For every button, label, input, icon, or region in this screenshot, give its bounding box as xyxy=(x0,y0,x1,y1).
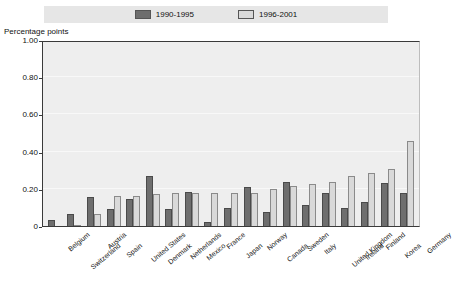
bar[interactable] xyxy=(283,182,290,226)
bar-group xyxy=(45,42,65,226)
bar-group xyxy=(300,42,320,226)
bar[interactable] xyxy=(231,193,238,226)
x-tick-label: Spain xyxy=(125,242,143,259)
y-tick-mark xyxy=(39,41,42,42)
bar-group xyxy=(397,42,417,226)
bar-group xyxy=(319,42,339,226)
bar[interactable] xyxy=(67,214,74,226)
bar-group xyxy=(84,42,104,226)
bar[interactable] xyxy=(48,220,55,227)
bar[interactable] xyxy=(329,182,336,226)
y-tick-label: 0.20 xyxy=(2,185,38,194)
bar[interactable] xyxy=(74,225,81,226)
x-axis-labels: BelgiumSwitzerlandAustriaSpainUnited Sta… xyxy=(42,229,420,287)
bar-group xyxy=(280,42,300,226)
x-tick-label: Canada xyxy=(285,242,308,263)
bar-group xyxy=(378,42,398,226)
x-tick-label: France xyxy=(225,231,246,250)
y-tick-label: 0.40 xyxy=(2,148,38,157)
bar[interactable] xyxy=(270,189,277,226)
y-axis-title: Percentage points xyxy=(4,27,69,36)
y-tick-mark xyxy=(39,227,42,228)
bar[interactable] xyxy=(251,193,258,226)
y-tick-mark xyxy=(39,190,42,191)
bar[interactable] xyxy=(192,193,199,226)
bar[interactable] xyxy=(94,214,101,226)
bar[interactable] xyxy=(114,196,121,226)
x-tick-label: Belgium xyxy=(67,231,91,253)
y-tick-label: 0.80 xyxy=(2,73,38,82)
bar[interactable] xyxy=(309,184,316,226)
y-tick-label: 0.60 xyxy=(2,110,38,119)
bar[interactable] xyxy=(381,183,388,226)
y-tick-label: 1.00 xyxy=(2,36,38,45)
bar[interactable] xyxy=(388,169,395,226)
x-tick-label: Japan xyxy=(244,242,263,260)
bar[interactable] xyxy=(126,199,133,226)
plot-area xyxy=(42,41,420,227)
bar[interactable] xyxy=(133,196,140,226)
bar[interactable] xyxy=(87,197,94,226)
bar[interactable] xyxy=(407,141,414,226)
bar-group xyxy=(104,42,124,226)
bar[interactable] xyxy=(348,176,355,226)
legend-swatch-dark xyxy=(135,10,151,19)
y-tick-mark xyxy=(39,115,42,116)
legend-item[interactable]: 1990-1995 xyxy=(135,10,194,19)
bar[interactable] xyxy=(204,222,211,226)
bar[interactable] xyxy=(153,194,160,226)
bar[interactable] xyxy=(244,187,251,226)
x-tick-label: Korea xyxy=(403,242,422,259)
bar[interactable] xyxy=(302,205,309,226)
x-tick-label: Italy xyxy=(323,242,337,256)
bar[interactable] xyxy=(322,193,329,226)
legend-label: 1996-2001 xyxy=(259,10,297,19)
chart-legend: 1990-19951996-2001 xyxy=(44,6,388,23)
bar[interactable] xyxy=(368,173,375,226)
bar-group xyxy=(123,42,143,226)
bar-group xyxy=(202,42,222,226)
bar[interactable] xyxy=(224,208,231,226)
bar[interactable] xyxy=(341,208,348,226)
y-tick-mark xyxy=(39,78,42,79)
x-tick-label: Germany xyxy=(426,231,452,255)
legend-label: 1990-1995 xyxy=(156,10,194,19)
bar-group xyxy=(241,42,261,226)
bar[interactable] xyxy=(146,176,153,226)
x-tick-label: Switzerland xyxy=(89,242,121,271)
bar-group xyxy=(182,42,202,226)
y-tick-mark xyxy=(39,153,42,154)
x-tick-label: Norway xyxy=(265,231,288,252)
bar-group xyxy=(339,42,359,226)
legend-swatch-light xyxy=(238,10,254,19)
legend-item[interactable]: 1996-2001 xyxy=(238,10,297,19)
bar-group xyxy=(143,42,163,226)
bar[interactable] xyxy=(290,186,297,226)
bar[interactable] xyxy=(211,193,218,226)
bar[interactable] xyxy=(400,193,407,226)
bar-group xyxy=(65,42,85,226)
y-tick-label: 0 xyxy=(2,222,38,231)
bar[interactable] xyxy=(263,212,270,226)
bar-series-container xyxy=(43,42,419,226)
bar[interactable] xyxy=(361,202,368,226)
bar-group xyxy=(221,42,241,226)
bar[interactable] xyxy=(165,209,172,226)
bar[interactable] xyxy=(172,193,179,226)
bar-group xyxy=(162,42,182,226)
bar-group xyxy=(260,42,280,226)
bar[interactable] xyxy=(107,209,114,226)
bar[interactable] xyxy=(185,192,192,226)
bar-group xyxy=(358,42,378,226)
